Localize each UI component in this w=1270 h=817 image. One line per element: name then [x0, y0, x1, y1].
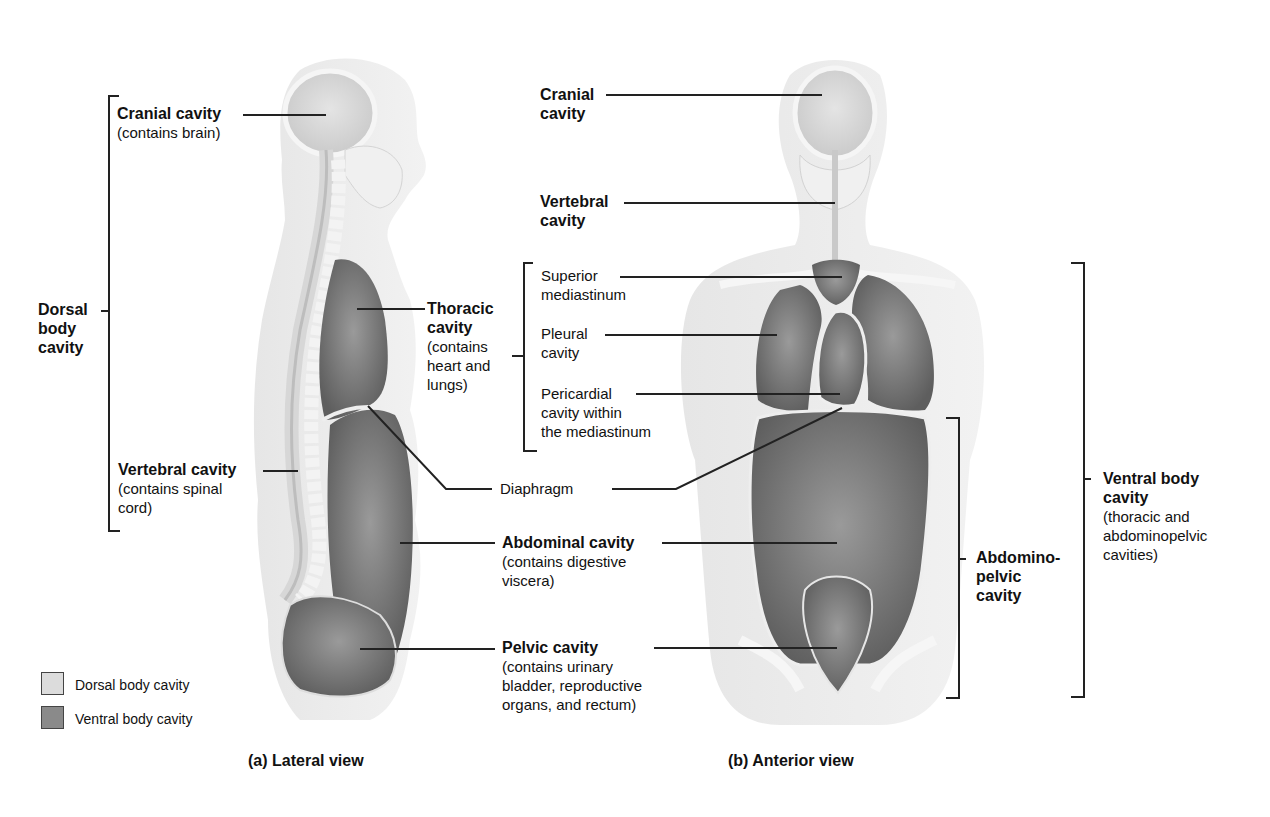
anterior-vertebral-label: Vertebral cavity	[540, 192, 608, 230]
pericardial-cavity	[818, 311, 866, 406]
diaphragm-label: Diaphragm	[500, 479, 573, 498]
thoracic-bracket-top	[523, 262, 533, 264]
lateral-view-caption: (a) Lateral view	[248, 752, 364, 770]
ventral-body-cavity-label: Ventral body cavity (thoracic and abdomi…	[1103, 469, 1207, 564]
anterior-abdominal-leader	[662, 542, 837, 544]
dorsal-bracket-bottom	[108, 530, 120, 532]
abdominopelvic-bracket-bottom	[946, 697, 960, 699]
thoracic-bracket-bottom	[523, 450, 537, 452]
ventral-bracket-tick	[1083, 478, 1091, 480]
dorsal-bracket	[108, 95, 110, 532]
lateral-vertebral-label: Vertebral cavity (contains spinal cord)	[118, 460, 236, 517]
lateral-cranial-cavity	[285, 71, 375, 155]
lateral-thoracic-leader	[357, 308, 425, 310]
abdominopelvic-bracket-tick	[958, 558, 966, 560]
anterior-pelvic-leader	[654, 647, 837, 649]
ventral-bracket	[1083, 262, 1085, 698]
legend-swatch-ventral	[41, 706, 64, 729]
thoracic-subdivisions-bracket	[523, 262, 525, 452]
pleural-cavity-leader	[605, 334, 777, 336]
legend-label-dorsal: Dorsal body cavity	[75, 676, 189, 695]
pericardial-cavity-label: Pericardial cavity within the mediastinu…	[541, 384, 651, 441]
anterior-cranial-leader	[606, 94, 822, 96]
abdominal-cavity-label: Abdominal cavity (contains digestive vis…	[502, 533, 634, 590]
dorsal-bracket-top	[108, 95, 119, 97]
anterior-cranial-cavity	[795, 68, 875, 158]
thoracic-cavity-label: Thoracic cavity (contains heart and lung…	[427, 299, 494, 394]
lateral-vertebral-leader	[263, 470, 298, 472]
lateral-cranial-leader	[243, 114, 326, 116]
dorsal-bracket-tick	[101, 310, 109, 312]
ventral-bracket-bottom	[1071, 696, 1085, 698]
abdominopelvic-bracket-top	[946, 417, 960, 419]
anterior-view-caption: (b) Anterior view	[728, 752, 854, 770]
legend-swatch-dorsal	[41, 672, 64, 695]
anterior-cranial-label: Cranial cavity	[540, 85, 594, 123]
ventral-bracket-top	[1071, 262, 1085, 264]
pleural-cavity-label: Pleural cavity	[541, 324, 588, 362]
lateral-pelvic-leader	[360, 648, 495, 650]
lateral-abdominal-leader	[400, 542, 495, 544]
superior-mediastinum-label: Superior mediastinum	[541, 266, 626, 304]
abdominopelvic-cavity-label: Abdomino- pelvic cavity	[976, 548, 1060, 605]
lateral-cranial-label: Cranial cavity (contains brain)	[117, 104, 221, 142]
dorsal-body-cavity-label: Dorsal body cavity	[38, 300, 88, 357]
pericardial-cavity-leader	[636, 393, 840, 395]
legend-label-ventral: Ventral body cavity	[75, 710, 193, 729]
anterior-vertebral-leader	[624, 202, 835, 204]
pelvic-cavity-label: Pelvic cavity (contains urinary bladder,…	[502, 638, 642, 714]
lateral-body-figure	[254, 59, 426, 720]
superior-mediastinum-leader	[620, 276, 842, 278]
